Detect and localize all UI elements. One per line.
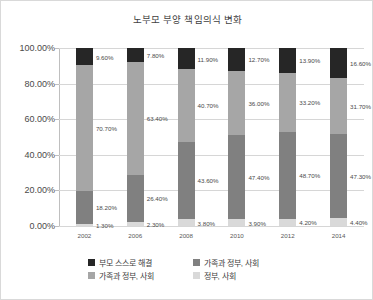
bar-segment[interactable]	[127, 175, 144, 222]
bar-segment[interactable]	[228, 135, 245, 219]
legend-row: 가족과 정부, 사회정부, 사회	[88, 270, 288, 281]
y-axis-tick	[55, 226, 59, 227]
y-axis-label: 0.00%	[0, 221, 55, 231]
bar-value-label: 4.40%	[350, 219, 368, 226]
bar-segment[interactable]	[76, 224, 93, 226]
bar-segment[interactable]	[127, 222, 144, 226]
chart-title: 노부모 부양 책임의식 변화	[1, 12, 373, 26]
bar-value-label: 13.90%	[299, 57, 320, 64]
x-axis-label-2010: 2010	[217, 232, 257, 239]
bar-value-label: 47.40%	[248, 173, 269, 180]
bar-segment[interactable]	[228, 48, 245, 71]
bar-segment[interactable]	[330, 134, 347, 218]
gridline	[59, 190, 364, 191]
bar-segment[interactable]	[76, 48, 93, 65]
bar-segment[interactable]	[279, 219, 296, 226]
bar-segment[interactable]	[76, 65, 93, 191]
bar-value-label: 26.40%	[147, 195, 168, 202]
x-axis-label-2002: 2002	[64, 232, 104, 239]
x-axis-label-2012: 2012	[268, 232, 308, 239]
y-axis-label: 40.00%	[0, 150, 55, 160]
bar-2012[interactable]: 4.20%48.70%33.20%13.90%	[279, 48, 296, 226]
bar-segment[interactable]	[330, 48, 347, 78]
bar-segment[interactable]	[76, 191, 93, 223]
bar-value-label: 36.00%	[248, 99, 269, 106]
legend-row: 부모 스스로 해결가족과 정부, 사회	[88, 257, 288, 268]
bar-value-label: 1.30%	[96, 221, 114, 228]
bar-2010[interactable]: 3.90%47.40%36.00%12.70%	[228, 48, 245, 226]
bar-segment[interactable]	[228, 219, 245, 226]
bar-value-label: 33.20%	[299, 99, 320, 106]
bar-segment[interactable]	[127, 48, 144, 62]
bar-value-label: 43.60%	[198, 177, 219, 184]
bar-value-label: 3.80%	[198, 219, 216, 226]
bar-2006[interactable]: 2.30%26.40%63.40%7.80%	[127, 48, 144, 226]
chart-legend: 부모 스스로 해결가족과 정부, 사회가족과 정부, 사회정부, 사회	[1, 257, 373, 281]
bar-value-label: 40.70%	[198, 102, 219, 109]
bar-segment[interactable]	[127, 62, 144, 175]
y-axis-tick	[55, 48, 59, 49]
legend-swatch-icon	[88, 272, 95, 279]
legend-label: 가족과 정부, 사회	[204, 257, 260, 268]
bar-value-label: 18.20%	[96, 204, 117, 211]
bar-value-label: 7.80%	[147, 52, 165, 59]
y-axis-label: 20.00%	[0, 185, 55, 195]
bar-value-label: 12.70%	[248, 56, 269, 63]
bar-value-label: 70.70%	[96, 125, 117, 132]
legend-item[interactable]: 부모 스스로 해결	[88, 257, 183, 268]
y-axis-label: 100.00%	[0, 43, 55, 53]
bar-value-label: 3.90%	[248, 219, 266, 226]
y-axis-label: 80.00%	[0, 79, 55, 89]
legend-label: 정부, 사회	[204, 270, 236, 281]
x-axis-label-2008: 2008	[166, 232, 206, 239]
legend-swatch-icon	[193, 259, 200, 266]
gridline	[59, 155, 364, 156]
legend-item[interactable]: 가족과 정부, 사회	[88, 270, 183, 281]
bar-value-label: 11.90%	[198, 55, 219, 62]
chart-container: 노부모 부양 책임의식 변화 0.00%20.00%40.00%60.00%80…	[0, 0, 373, 300]
bar-value-label: 63.40%	[147, 115, 168, 122]
legend-label: 가족과 정부, 사회	[99, 270, 155, 281]
bar-segment[interactable]	[330, 218, 347, 226]
bar-value-label: 9.60%	[96, 53, 114, 60]
y-axis-tick	[55, 119, 59, 120]
gridline	[59, 48, 364, 49]
legend-item[interactable]: 가족과 정부, 사회	[193, 257, 288, 268]
bar-2008[interactable]: 3.80%43.60%40.70%11.90%	[178, 48, 195, 226]
x-axis-label-2014: 2014	[319, 232, 359, 239]
bar-segment[interactable]	[178, 219, 195, 226]
bar-segment[interactable]	[178, 48, 195, 69]
legend-item[interactable]: 정부, 사회	[193, 270, 288, 281]
legend-swatch-icon	[88, 259, 95, 266]
bar-value-label: 16.60%	[350, 59, 371, 66]
bar-segment[interactable]	[330, 78, 347, 134]
y-axis-tick	[55, 84, 59, 85]
y-axis-label: 60.00%	[0, 114, 55, 124]
legend-label: 부모 스스로 해결	[99, 257, 152, 268]
bar-value-label: 2.30%	[147, 220, 165, 227]
bar-segment[interactable]	[178, 69, 195, 141]
gridline	[59, 119, 364, 120]
y-axis-tick	[55, 155, 59, 156]
gridline	[59, 84, 364, 85]
x-axis-label-2006: 2006	[115, 232, 155, 239]
bar-segment[interactable]	[279, 132, 296, 219]
plot-area: 1.30%18.20%70.70%9.60%2.30%26.40%63.40%7…	[59, 48, 364, 226]
bar-value-label: 47.30%	[350, 173, 371, 180]
bar-segment[interactable]	[279, 73, 296, 132]
bar-value-label: 48.70%	[299, 172, 320, 179]
bar-value-label: 31.70%	[350, 102, 371, 109]
bar-segment[interactable]	[178, 142, 195, 220]
bar-2002[interactable]: 1.30%18.20%70.70%9.60%	[76, 48, 93, 226]
y-axis-line	[59, 48, 60, 226]
legend-swatch-icon	[193, 272, 200, 279]
y-axis-tick	[55, 190, 59, 191]
bar-segment[interactable]	[279, 48, 296, 73]
bar-segment[interactable]	[228, 71, 245, 135]
bar-2014[interactable]: 4.40%47.30%31.70%16.60%	[330, 48, 347, 226]
bar-value-label: 4.20%	[299, 219, 317, 226]
